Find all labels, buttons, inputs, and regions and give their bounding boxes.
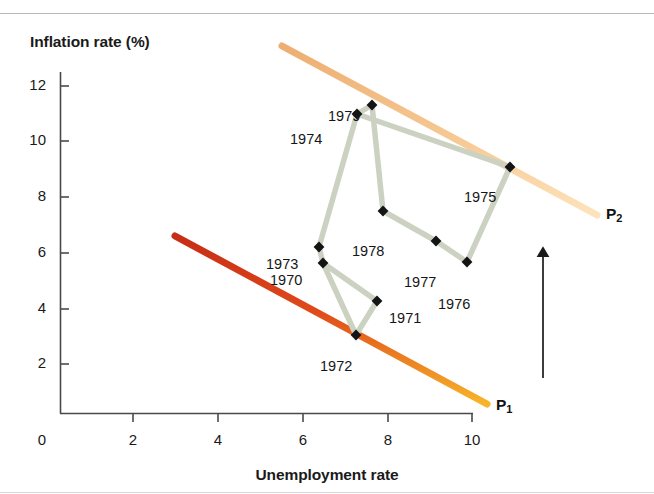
y-tick-label-2: 2 [12, 354, 46, 371]
phillips-curve-p2-line [282, 46, 597, 215]
x-axis-title: Unemployment rate [0, 466, 654, 484]
data-point-label-1977: 1977 [404, 274, 436, 290]
x-tick-label-10: 10 [452, 431, 492, 448]
data-point-label-1975: 1975 [464, 189, 496, 205]
y-axis-ticks [60, 86, 69, 364]
p1-label-sub: 1 [506, 403, 512, 415]
phillips-curve-p1-line [175, 236, 487, 404]
y-tick-label-6: 6 [12, 243, 46, 260]
series-polyline [319, 105, 510, 335]
phillips-curve-p2-label: P2 [606, 205, 622, 223]
data-point-label-1972: 1972 [320, 358, 352, 374]
x-tick-label-4: 4 [198, 431, 238, 448]
y-tick-label-0: 0 [12, 431, 46, 448]
y-tick-label-8: 8 [12, 187, 46, 204]
y-axis-title: Inflation rate (%) [30, 33, 150, 51]
data-point-label-1974: 1974 [290, 131, 322, 147]
phillips-curve-p1-label: P1 [496, 396, 512, 414]
plot-canvas [0, 0, 654, 494]
data-point-label-1973: 1973 [266, 256, 298, 272]
x-tick-label-2: 2 [113, 431, 153, 448]
data-point-label-1976: 1976 [438, 296, 470, 312]
data-point-label-1970: 1970 [270, 272, 302, 288]
y-tick-label-12: 12 [12, 76, 46, 93]
x-tick-label-6: 6 [283, 431, 323, 448]
p2-label-sub: 2 [616, 212, 622, 224]
x-tick-label-8: 8 [368, 431, 408, 448]
phillips-curve-chart: Inflation rate (%) Unemployment rate 12 … [0, 0, 654, 494]
y-tick-label-4: 4 [12, 299, 46, 316]
data-point-label-1978: 1978 [352, 243, 384, 259]
y-tick-label-10: 10 [12, 131, 46, 148]
data-path [319, 105, 510, 335]
p2-label-text: P [606, 205, 616, 222]
data-point-label-1971: 1971 [389, 310, 421, 326]
x-axis-ticks [133, 413, 472, 422]
data-point-label-1979: 1979 [328, 108, 360, 124]
p1-label-text: P [496, 396, 506, 413]
